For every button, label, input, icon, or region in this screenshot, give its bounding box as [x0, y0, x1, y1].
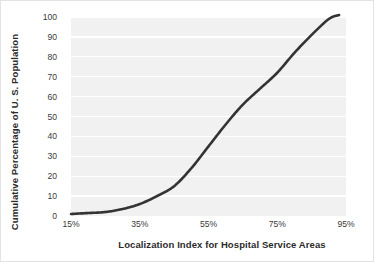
data-line-cumulative-population: [71, 15, 339, 214]
x-tick-label: 15%: [49, 219, 93, 229]
y-tick-label: 40: [17, 131, 57, 141]
y-tick-label: 60: [17, 92, 57, 102]
x-tick-label: 35%: [118, 219, 162, 229]
y-tick-label: 30: [17, 151, 57, 161]
y-tick-label: 70: [17, 72, 57, 82]
y-tick-label: 80: [17, 52, 57, 62]
y-tick-label: 20: [17, 171, 57, 181]
x-axis-title: Localization Index for Hospital Service …: [71, 239, 373, 250]
y-tick-label: 100: [17, 12, 57, 22]
y-tick-label: 90: [17, 32, 57, 42]
plot-area: [71, 17, 346, 216]
curve-svg: [71, 17, 346, 216]
x-tick-label: 75%: [255, 219, 299, 229]
x-tick-label: 95%: [324, 219, 368, 229]
x-tick-label: 55%: [187, 219, 231, 229]
chart-figure: Cumulative Percentage of U. S. Populatio…: [0, 0, 374, 262]
y-tick-label: 10: [17, 191, 57, 201]
y-tick-label: 50: [17, 112, 57, 122]
